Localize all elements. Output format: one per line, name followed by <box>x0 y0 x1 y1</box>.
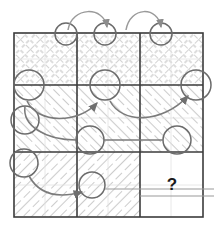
cell-r2c3 <box>140 85 203 152</box>
cell-r3c1 <box>14 152 77 217</box>
puzzle-canvas: ? <box>0 0 214 227</box>
cell-r2c2 <box>77 85 140 152</box>
matrix-reasoning-puzzle: ? <box>0 0 214 227</box>
arrow-arc-top-right <box>126 12 161 30</box>
missing-cell-question-mark: ? <box>167 175 177 194</box>
cell-r3c2 <box>77 152 140 217</box>
